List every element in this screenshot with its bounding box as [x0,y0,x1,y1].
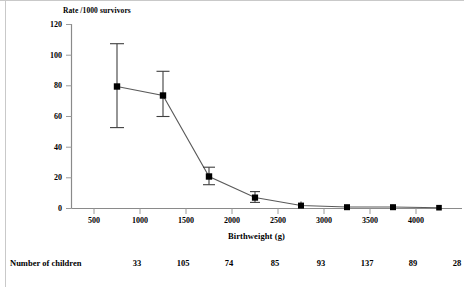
x-tick-label-2500: 2500 [258,216,298,225]
data-point-3 [206,173,212,179]
count-value-1: 33 [117,258,157,268]
x-tick-label-1500: 1500 [166,216,206,225]
counts-row: Number of children 33 105 74 85 93 137 8… [0,258,464,274]
x-tick-label-500: 500 [74,216,114,225]
plot-area [0,0,464,287]
x-tick-marks [94,209,416,215]
data-line [117,87,439,208]
x-tick-label-3000: 3000 [304,216,344,225]
count-value-7: 89 [393,258,433,268]
x-tick-label-2000: 2000 [212,216,252,225]
data-point-1 [114,83,120,89]
x-axis-title: Birthweight (g) [228,231,285,241]
counts-row-label: Number of children [10,258,81,268]
data-point-6 [344,204,350,210]
data-point-7 [390,204,396,210]
x-tick-label-1000: 1000 [120,216,160,225]
count-value-8: 28 [437,258,464,268]
x-tick-label-3500: 3500 [350,216,390,225]
count-value-6: 137 [347,258,387,268]
x-tick-label-4000: 4000 [396,216,436,225]
data-point-5 [298,203,304,209]
data-point-8 [436,205,442,211]
chart-figure: Rate /1000 survivors 120 100 80 60 40 20… [0,0,464,287]
y-tick-marks [66,25,72,209]
data-point-4 [252,195,258,201]
error-bars [110,44,439,209]
count-value-3: 74 [209,258,249,268]
data-point-2 [160,92,166,98]
count-value-5: 93 [301,258,341,268]
count-value-2: 105 [163,258,203,268]
count-value-4: 85 [255,258,295,268]
